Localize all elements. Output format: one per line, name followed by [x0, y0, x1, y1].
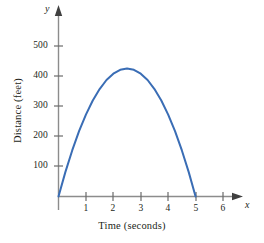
y-axis-title: Distance (feet) — [12, 55, 23, 167]
x-tick-label-2: 2 — [106, 203, 120, 213]
y-tick-label-500: 500 — [22, 40, 48, 50]
y-axis-variable-label: y — [45, 3, 49, 14]
distance-vs-time-chart: 100 200 300 400 500 1 2 3 4 5 6 y x Time… — [0, 0, 264, 243]
x-axis-variable-label: x — [245, 199, 249, 210]
x-axis-title: Time (seconds) — [0, 220, 264, 231]
x-tick-label-4: 4 — [161, 203, 175, 213]
distance-curve — [59, 69, 196, 197]
y-tick-label-400: 400 — [22, 70, 48, 80]
y-tick-label-100: 100 — [22, 160, 48, 170]
y-axis-arrow-icon — [55, 5, 62, 16]
y-tick-label-300: 300 — [22, 100, 48, 110]
x-axis-arrow-icon — [232, 193, 243, 200]
y-tick-label-200: 200 — [22, 130, 48, 140]
x-tick-label-6: 6 — [216, 203, 230, 213]
x-tick-label-3: 3 — [134, 203, 148, 213]
x-tick-label-5: 5 — [189, 203, 203, 213]
x-tick-label-1: 1 — [79, 203, 93, 213]
